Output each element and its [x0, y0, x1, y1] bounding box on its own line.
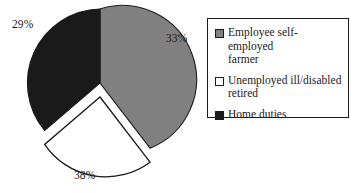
- pie-chart-plot-area: 29% 33% 38%: [0, 0, 200, 193]
- legend-label-line1: Unemployed ill/disabled: [228, 74, 341, 86]
- white-square-swatch-icon: [215, 77, 224, 86]
- pie-data-label-home-duties: 29%: [12, 18, 33, 30]
- legend-item-unemployed-ill-disabled-retired[interactable]: Unemployed ill/disabledretired: [215, 74, 342, 101]
- pie-data-label-unemployed-ill-disabled-retired: 38%: [74, 169, 95, 181]
- legend-item-label: Home duties: [228, 108, 286, 122]
- legend-label-line2: farmer: [228, 53, 259, 65]
- legend-label-line1: Home duties: [228, 108, 286, 120]
- legend-label-line1: Employee self-employed: [228, 26, 298, 52]
- legend-item-label: Unemployed ill/disabledretired: [228, 74, 341, 101]
- chart-legend: Employee self-employedfarmer Unemployed …: [207, 18, 349, 118]
- legend-item-employee-self-employed-farmer[interactable]: Employee self-employedfarmer: [215, 26, 342, 67]
- gray-square-swatch-icon: [215, 29, 224, 38]
- legend-item-home-duties[interactable]: Home duties: [215, 108, 342, 122]
- pie-chart-figure: 29% 33% 38% Employee self-employedfarmer…: [0, 0, 364, 193]
- dark-square-swatch-icon: [215, 111, 224, 120]
- legend-item-label: Employee self-employedfarmer: [228, 26, 342, 67]
- legend-label-line2: retired: [228, 87, 258, 99]
- pie-data-label-employee-self-employed-farmer: 33%: [166, 32, 187, 44]
